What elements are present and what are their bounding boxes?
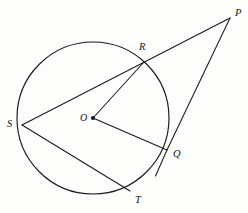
chord-line-st [22, 125, 130, 191]
point-label-p: P [235, 8, 241, 19]
radius-line-or [93, 62, 144, 118]
geometry-figure: P R Q S T O [0, 0, 248, 213]
point-label-o: O [80, 113, 87, 123]
point-label-r: R [139, 42, 145, 53]
point-label-q: Q [173, 149, 181, 160]
tangent-extension-line [156, 150, 168, 176]
figure-canvas [0, 0, 248, 213]
point-label-t: T [135, 195, 141, 206]
point-label-s: S [7, 119, 12, 130]
tangent-line-pq [167, 18, 230, 150]
secant-line-sp [22, 18, 230, 125]
radius-line-oq [93, 118, 167, 150]
center-point-dot [91, 116, 95, 120]
